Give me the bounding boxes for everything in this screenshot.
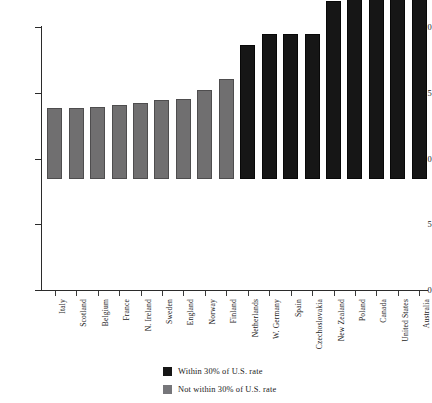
legend-swatch-icon-within (163, 367, 172, 376)
x-label-poland: Poland (358, 299, 367, 321)
x-tick-17 (419, 291, 420, 296)
x-label-w-germany: W. Germany (272, 299, 281, 339)
legend-item-not-within: Not within 30% of U.S. rate (163, 381, 363, 397)
bar-czechoslovakia (305, 34, 320, 179)
x-tick-2 (98, 291, 99, 296)
bar-norway (197, 90, 212, 179)
x-tick-8 (226, 291, 227, 296)
x-tick-0 (55, 291, 56, 296)
x-label-norway: Norway (208, 299, 217, 324)
x-label-new-zealand: New Zealand (337, 299, 346, 341)
x-label-netherlands: Netherlands (251, 299, 260, 337)
x-label-france: France (122, 299, 131, 321)
x-tick-16 (398, 291, 399, 296)
x-label-czechoslovakia: Czechoslovakia (315, 299, 324, 349)
x-label-italy: Italy (58, 299, 67, 314)
bar-chart: 05101520 ItalyScotlandBelgiumFranceN. Ir… (0, 0, 432, 403)
y-tick-15 (35, 93, 41, 94)
bar-france (112, 105, 127, 179)
x-label-australia: Australia (422, 299, 431, 328)
x-label-sweden: Sweden (165, 299, 174, 324)
x-tick-5 (162, 291, 163, 296)
y-tick-20 (35, 27, 41, 28)
legend-item-within: Within 30% of U.S. rate (163, 363, 363, 379)
x-label-n-ireland: N. Ireland (144, 299, 153, 331)
x-tick-15 (376, 291, 377, 296)
x-tick-6 (183, 291, 184, 296)
x-tick-12 (312, 291, 313, 296)
x-tick-1 (76, 291, 77, 296)
x-label-united-states: United States (401, 299, 410, 342)
x-tick-3 (119, 291, 120, 296)
bar-scotland (69, 108, 84, 179)
bar-n-ireland (133, 103, 148, 179)
bar-poland (347, 0, 362, 179)
x-label-spain: Spain (294, 299, 303, 317)
chart-legend: Within 30% of U.S. rate Not within 30% o… (163, 363, 363, 399)
bar-australia (412, 0, 427, 179)
bar-netherlands (240, 45, 255, 179)
bar-canada (369, 0, 384, 179)
x-tick-10 (269, 291, 270, 296)
bar-finland (219, 79, 234, 179)
x-tick-4 (141, 291, 142, 296)
x-label-belgium: Belgium (101, 299, 110, 326)
bar-series-container (42, 0, 428, 291)
y-tick-10 (35, 159, 41, 160)
x-tick-7 (205, 291, 206, 296)
bar-italy (47, 108, 62, 179)
legend-label-within: Within 30% of U.S. rate (178, 367, 263, 376)
y-tick-0 (35, 290, 41, 291)
legend-swatch-icon-not-within (163, 385, 172, 394)
x-tick-11 (291, 291, 292, 296)
x-label-england: England (186, 299, 195, 325)
x-tick-13 (334, 291, 335, 296)
bar-belgium (90, 107, 105, 179)
bar-sweden (154, 100, 169, 179)
y-tick-5 (35, 224, 41, 225)
bar-england (176, 99, 191, 179)
x-label-canada: Canada (379, 299, 388, 323)
x-label-finland: Finland (229, 299, 238, 323)
bar-w-germany (262, 34, 277, 179)
x-tick-9 (248, 291, 249, 296)
bar-spain (283, 34, 298, 179)
legend-label-not-within: Not within 30% of U.S. rate (178, 385, 276, 394)
bar-new-zealand (326, 1, 341, 179)
x-tick-14 (355, 291, 356, 296)
x-label-scotland: Scotland (79, 299, 88, 327)
bar-united-states (390, 0, 405, 179)
